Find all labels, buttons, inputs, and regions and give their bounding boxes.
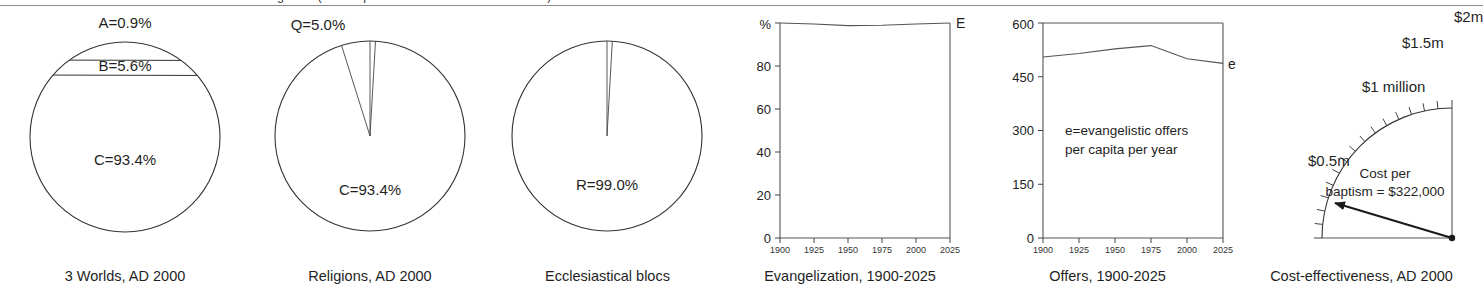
offers-annotation-line2: per capita per year [1065,142,1178,157]
panel-3-worlds: A=0.9% B=5.6% C=93.4% 3 Worlds, AD 2000 [0,0,250,292]
slice-label-a: A=0.9% [99,14,152,31]
panel-religions: Q=5.0% C=93.4% Religions, AD 2000 [250,0,490,292]
gauge-annotation-line1: Cost per [1359,166,1411,181]
xtick-2000: 2000 [906,245,926,255]
ytick-o-150: 150 [1012,177,1034,192]
chart-religions-labels: Q=5.0% C=93.4% [250,0,490,256]
ytick-20: 20 [757,188,771,203]
offers-annotation-line1: e=evangelistic offers [1065,123,1188,138]
chart-cost-effectiveness: $0.5m $1 million $1.5m $2m Cost per bapt… [1240,0,1483,256]
series-label-e-upper: E [956,15,965,31]
panel-cost-effectiveness: $0.5m $1 million $1.5m $2m Cost per bapt… [1240,0,1483,292]
slice-label-c: C=93.4% [94,151,156,168]
xtick-1950: 1950 [838,245,858,255]
ytick-o-450: 450 [1012,70,1034,85]
slice-label-b: B=5.6% [99,57,152,74]
xtick-o-2000: 2000 [1177,245,1197,255]
panel-caption-evangelization: Evangelization, 1900-2025 [725,268,975,284]
ytick-60: 60 [757,102,771,117]
gauge-pivot [1449,235,1455,241]
panel-caption-3-worlds: 3 Worlds, AD 2000 [0,268,250,284]
panel-evangelization: 0 20 40 60 80 % 1900 1925 1950 1975 2000… [725,0,975,292]
xtick-1975: 1975 [872,245,892,255]
chart-offers: 0 150 300 450 600 1900 1925 1950 1975 20… [975,0,1240,256]
panel-caption-offers: Offers, 1900-2025 [975,268,1240,284]
panel-caption-religions: Religions, AD 2000 [250,268,490,284]
slice-label-q: Q=5.0% [291,16,346,33]
ytick-80: 80 [757,59,771,74]
xtick-o-2025: 2025 [1213,245,1233,255]
xtick-2025: 2025 [940,245,960,255]
panel-caption-ecclesiastical-blocs: Ecclesiastical blocs [490,268,725,284]
gauge-annotation-line2: baptism = $322,000 [1326,184,1445,199]
ytick-o-0: 0 [1027,231,1034,246]
panel-caption-cost-effectiveness: Cost-effectiveness, AD 2000 [1240,268,1483,284]
ytick-percent: % [759,17,771,32]
chart-evangelization: 0 20 40 60 80 % 1900 1925 1950 1975 2000… [725,0,975,256]
slice-label-r: R=99.0% [576,176,638,193]
gauge-label-0-5m: $0.5m [1308,152,1350,169]
xtick-1900: 1900 [770,245,790,255]
gauge-label-1-million: $1 million [1362,78,1425,95]
chart-ecclesiastical-blocs-labels: R=99.0% [490,0,725,256]
xtick-o-1950: 1950 [1105,245,1125,255]
ytick-o-300: 300 [1012,123,1034,138]
panel-ecclesiastical-blocs: R=99.0% Ecclesiastical blocs [490,0,725,292]
figure-panel-strip: Great Commission instruments and statist… [0,0,1483,292]
xtick-o-1900: 1900 [1033,245,1053,255]
gauge-label-1-5m: $1.5m [1402,34,1444,51]
panel-offers: 0 150 300 450 600 1900 1925 1950 1975 20… [975,0,1240,292]
ytick-o-600: 600 [1012,17,1034,32]
xtick-o-1975: 1975 [1141,245,1161,255]
ytick-40: 40 [757,145,771,160]
gauge-needle [1335,203,1452,238]
series-label-e-lower: e [1228,56,1236,72]
gauge-label-2m: $2m [1454,8,1483,25]
chart-3-worlds-labels: A=0.9% B=5.6% C=93.4% [0,0,250,256]
xtick-1925: 1925 [804,245,824,255]
xtick-o-1925: 1925 [1069,245,1089,255]
ytick-0: 0 [764,231,771,246]
slice-label-c2: C=93.4% [339,181,401,198]
